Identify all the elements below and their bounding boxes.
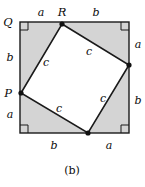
vertex-label-Q: Q [3,17,12,28]
vertex-dot-R [59,21,64,26]
hypotenuse-label-bottom-right-c: c [100,93,106,104]
hypotenuse-label-bottom-left-c: c [56,103,62,114]
hypotenuse-label-top-left-c: c [43,57,49,68]
vertex-label-P: P [4,88,12,99]
hypotenuse-label-top-right-c: c [86,46,92,57]
vertex-dot-P [18,90,23,95]
side-label-right-lower-b: b [134,95,141,106]
side-label-bottom-right-a: a [106,140,113,151]
figure-canvas [0,0,145,187]
side-label-left-upper-b: b [6,52,13,63]
vertex-label-R: R [58,7,67,18]
side-label-bottom-left-b: b [50,140,57,151]
vertex-dot-bottom [85,130,90,135]
vertex-dot-right [126,62,131,67]
figure-caption: (b) [64,164,80,177]
geometry-figure: Q R P a b a b b a b a c c c c (b) [0,0,145,187]
side-label-top-left-a: a [38,7,45,18]
side-label-top-right-b: b [92,7,99,18]
side-label-left-lower-a: a [7,109,14,120]
side-label-right-upper-a: a [135,39,142,50]
